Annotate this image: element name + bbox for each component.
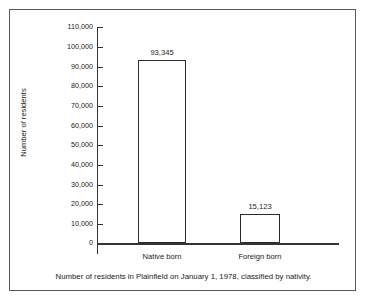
x-axis-label-foreign-born: Foreign born [226, 252, 294, 261]
y-axis-tick [98, 243, 103, 244]
y-axis-tick [98, 126, 103, 127]
y-axis-tick-label: 80,000 [33, 82, 93, 90]
y-axis-tick [98, 67, 103, 68]
figure-frame: 110,000 100,000 90,000 80,000 70,000 60,… [9, 9, 356, 291]
y-axis-title: Number of residents [19, 63, 28, 183]
y-axis-tick [98, 145, 103, 146]
y-axis-tick-label: 0 [33, 239, 93, 247]
bar-value-native-born: 93,345 [128, 48, 196, 57]
bar-value-foreign-born: 15,123 [226, 202, 294, 211]
bar-foreign-born[interactable] [240, 214, 280, 243]
y-axis-tick [98, 47, 103, 48]
x-axis-label-native-born: Native born [128, 252, 196, 261]
y-axis-tick-label: 100,000 [33, 43, 93, 51]
y-axis-tick-label: 110,000 [33, 23, 93, 31]
y-axis-tick [98, 185, 103, 186]
y-axis-tick [98, 224, 103, 225]
y-axis-tick-label: 10,000 [33, 220, 93, 228]
y-axis-tick-label: 70,000 [33, 102, 93, 110]
y-axis-tick-label: 60,000 [33, 122, 93, 130]
bar-native-born[interactable] [138, 60, 186, 243]
y-axis-tick [98, 106, 103, 107]
y-axis-tick-label: 30,000 [33, 181, 93, 189]
y-axis-line [97, 27, 98, 254]
y-axis-tick-label: 20,000 [33, 200, 93, 208]
y-axis-tick [98, 27, 103, 28]
y-axis-tick-label: 90,000 [33, 63, 93, 71]
y-axis-tick [98, 86, 103, 87]
bar-chart-plot-area: 110,000 100,000 90,000 80,000 70,000 60,… [10, 10, 357, 292]
figure-caption: Number of residents in Plainfield on Jan… [10, 272, 357, 282]
y-axis-tick-label: 40,000 [33, 161, 93, 169]
y-axis-tick-label: 50,000 [33, 141, 93, 149]
y-axis-tick [98, 165, 103, 166]
x-axis-line [97, 243, 339, 245]
y-axis-tick [98, 204, 103, 205]
